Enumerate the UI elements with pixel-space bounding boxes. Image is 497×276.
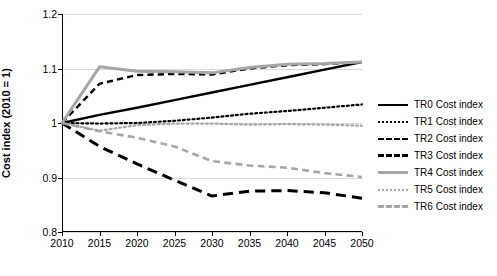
x-tick-mark: [212, 232, 213, 236]
legend-label: TR3 Cost index: [414, 150, 483, 161]
x-tick-label: 2045: [313, 237, 336, 249]
cost-index-line-chart: Cost index (2010 = 1) 0.80.911.11.2 2010…: [0, 0, 497, 276]
legend-label: TR1 Cost index: [414, 116, 483, 127]
legend-item: TR1 Cost index: [378, 113, 494, 130]
series-line-0: [62, 62, 362, 123]
legend-item: TR6 Cost index: [378, 198, 494, 215]
x-tick-mark: [362, 232, 363, 236]
x-tick-mark: [325, 232, 326, 236]
y-tick-label: 1.2: [42, 8, 57, 20]
legend-label: TR0 Cost index: [414, 99, 483, 110]
plot-area: 0.80.911.11.2 20102015202020252030203520…: [62, 14, 362, 232]
legend-swatch: [378, 205, 408, 208]
y-tick-label: 1.1: [42, 63, 57, 75]
legend-item: TR2 Cost index: [378, 130, 494, 147]
legend-item: TR0 Cost index: [378, 96, 494, 113]
x-tick-label: 2025: [163, 237, 186, 249]
x-tick-label: 2030: [200, 237, 223, 249]
y-axis-label: Cost index (2010 = 1): [0, 68, 12, 178]
y-tick-label: 0.9: [42, 172, 57, 184]
x-tick-label: 2035: [238, 237, 261, 249]
series-line-3: [62, 123, 362, 198]
legend-swatch: [378, 171, 408, 174]
x-tick-mark: [100, 232, 101, 236]
x-tick-mark: [250, 232, 251, 236]
legend-item: TR3 Cost index: [378, 147, 494, 164]
x-tick-mark: [287, 232, 288, 236]
legend-label: TR2 Cost index: [414, 133, 483, 144]
legend-label: TR5 Cost index: [414, 184, 483, 195]
x-tick-mark: [62, 232, 63, 236]
legend: TR0 Cost indexTR1 Cost indexTR2 Cost ind…: [378, 96, 494, 215]
legend-swatch: [378, 154, 408, 157]
legend-label: TR6 Cost index: [414, 201, 483, 212]
legend-item: TR5 Cost index: [378, 181, 494, 198]
legend-item: TR4 Cost index: [378, 164, 494, 181]
x-tick-label: 2015: [88, 237, 111, 249]
x-tick-label: 2040: [275, 237, 298, 249]
x-tick-label: 2020: [125, 237, 148, 249]
y-tick-label: 1: [51, 117, 57, 129]
legend-swatch: [378, 104, 408, 106]
x-tick-mark: [175, 232, 176, 236]
legend-swatch: [378, 138, 408, 140]
legend-label: TR4 Cost index: [414, 167, 483, 178]
legend-swatch: [378, 189, 408, 191]
x-tick-label: 2050: [350, 237, 373, 249]
x-tick-mark: [137, 232, 138, 236]
legend-swatch: [378, 121, 408, 123]
x-tick-label: 2010: [50, 237, 73, 249]
series-lines: [62, 14, 362, 232]
